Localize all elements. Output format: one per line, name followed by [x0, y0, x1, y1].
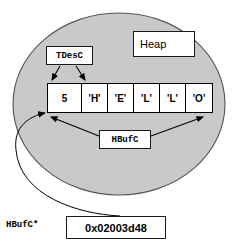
pointer-address-box: 0x02003d48 [66, 216, 166, 239]
buffer-cell-char-0: 'H' [82, 84, 108, 112]
buffer-cell-value: 'E' [115, 93, 126, 104]
pointer-address-text: 0x02003d48 [85, 222, 147, 234]
hbufc-pointer-label: HBufC* [6, 220, 38, 230]
arrow-tdesc-to-first-char-cell [76, 66, 85, 80]
arrow-hbufc-to-buffer-right [151, 117, 203, 136]
buffer-cell-char-2: 'L' [134, 84, 160, 112]
hbufc-pointer-label-text: HBufC* [6, 220, 38, 230]
buffer-cell-char-4: 'O' [186, 84, 212, 112]
heap-label-text: Heap [140, 38, 166, 50]
arrow-tdesc-to-length-cell [52, 66, 60, 80]
hbufc-label-box: HBufC [99, 130, 151, 149]
tdesc-label-box: TDesC [46, 46, 93, 65]
tdesc-label-text: TDesC [56, 51, 83, 61]
buffer-cell-length: 5 [48, 84, 82, 112]
arrows-layer [0, 0, 238, 248]
buffer-cell-value: 'L' [141, 93, 152, 104]
hbufc-buffer: 5 'H' 'E' 'L' 'L' 'O' [47, 83, 213, 113]
heap-label-box: Heap [133, 31, 195, 57]
buffer-cell-char-3: 'L' [160, 84, 186, 112]
buffer-cell-value: 5 [62, 93, 68, 104]
buffer-cell-value: 'O' [193, 93, 206, 104]
hbufc-label-text: HBufC [111, 135, 138, 145]
diagram-canvas: Heap TDesC 5 'H' 'E' 'L' 'L' 'O' HBufC H… [0, 0, 238, 248]
buffer-cell-char-1: 'E' [108, 84, 134, 112]
arrow-hbufc-to-buffer-left [51, 117, 99, 136]
buffer-cell-value: 'L' [167, 93, 178, 104]
arrow-pointer-to-buffer [16, 113, 120, 216]
buffer-cell-value: 'H' [89, 93, 101, 104]
